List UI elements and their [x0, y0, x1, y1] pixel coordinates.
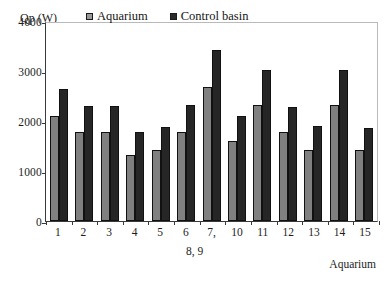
bar-control-basin [186, 105, 195, 221]
bar-chart: 01000200030004000 Qp (W) Aquarium Contro… [0, 0, 390, 283]
bar-control-basin [161, 127, 170, 221]
y-axis-tick-mark [42, 23, 46, 24]
bar-control-basin [288, 107, 297, 222]
x-axis-tick-label: 10 [224, 226, 250, 238]
x-axis-tick-mark [328, 221, 329, 225]
y-axis-tick-mark [42, 173, 46, 174]
bar-group [250, 23, 275, 221]
bar-aquarium [330, 105, 339, 221]
y-axis-tick-labels: 01000200030004000 [0, 0, 42, 283]
x-axis-tick-mark [123, 221, 124, 225]
bar-aquarium [279, 132, 288, 221]
y-axis-tick-label: 3000 [4, 67, 42, 79]
bar-control-basin [364, 128, 373, 222]
bar-group [326, 23, 351, 221]
bar-aquarium [203, 87, 212, 221]
bar-aquarium [177, 132, 186, 221]
chart-legend: Aquarium Control basin [86, 10, 248, 23]
x-axis-tick-mark [379, 221, 380, 225]
x-axis-tick-mark [200, 221, 201, 225]
x-axis-tick-mark [46, 221, 47, 225]
bar-group [71, 23, 96, 221]
bar-control-basin [237, 116, 246, 222]
bar-aquarium [253, 105, 262, 221]
bar-group [301, 23, 326, 221]
bar-control-basin [135, 132, 144, 221]
y-axis-tick-label: 0 [4, 217, 42, 229]
x-axis-tick-mark [277, 221, 278, 225]
x-axis-tick-mark [174, 221, 175, 225]
x-axis-tick-mark [353, 221, 354, 225]
bar-aquarium [355, 150, 364, 221]
x-axis-tick-label: 15 [352, 226, 378, 238]
bar-group [224, 23, 249, 221]
legend-item-aquarium: Aquarium [86, 10, 148, 23]
legend-swatch-aquarium-icon [86, 13, 93, 20]
x-axis-tick-label: 13 [301, 226, 327, 238]
x-axis-tick-mark [225, 221, 226, 225]
bar-group [122, 23, 147, 221]
bar-aquarium [101, 132, 110, 221]
x-axis-tick-label: 1 [45, 226, 71, 238]
x-axis-tick-label: 12 [275, 226, 301, 238]
bar-group [199, 23, 224, 221]
bar-control-basin [262, 70, 271, 221]
plot-area [45, 22, 378, 222]
x-axis-tick-label: 2 [71, 226, 97, 238]
x-axis-tick-mark [72, 221, 73, 225]
x-axis-tick-label: 3 [96, 226, 122, 238]
bars-layer [46, 23, 377, 221]
bar-control-basin [313, 126, 322, 221]
y-axis-tick-mark [42, 73, 46, 74]
bar-control-basin [84, 106, 93, 222]
x-axis-wrapped-label: 8, 9 [28, 245, 361, 257]
x-axis-tick-labels: 1234567,101112131415 [45, 226, 378, 246]
legend-swatch-control-basin-icon [170, 13, 177, 20]
bar-group [148, 23, 173, 221]
x-axis-tick-label: 6 [173, 226, 199, 238]
x-axis-tick-label: 11 [250, 226, 276, 238]
y-axis-tick-label: 2000 [4, 117, 42, 129]
legend-label-aquarium: Aquarium [97, 10, 148, 23]
x-axis-tick-label: 5 [147, 226, 173, 238]
bar-control-basin [339, 70, 348, 221]
x-axis-tick-mark [302, 221, 303, 225]
bar-aquarium [152, 150, 161, 221]
bar-group [46, 23, 71, 221]
bar-aquarium [304, 150, 313, 221]
x-axis-tick-label: 4 [122, 226, 148, 238]
x-axis-tick-label: 7, [199, 226, 225, 238]
bar-aquarium [228, 141, 237, 221]
bar-aquarium [126, 155, 135, 222]
bar-group [173, 23, 198, 221]
legend-item-control-basin: Control basin [170, 10, 249, 23]
legend-label-control-basin: Control basin [181, 10, 249, 23]
bar-control-basin [110, 106, 119, 222]
y-axis-tick-label: 1000 [4, 167, 42, 179]
x-axis-tick-mark [97, 221, 98, 225]
bar-aquarium [75, 132, 84, 221]
bar-group [275, 23, 300, 221]
x-axis-tick-mark [148, 221, 149, 225]
bar-group [97, 23, 122, 221]
bar-control-basin [212, 50, 221, 221]
bar-group [352, 23, 377, 221]
x-axis-tick-label: 14 [327, 226, 353, 238]
x-axis-tick-mark [251, 221, 252, 225]
y-axis-tick-mark [42, 123, 46, 124]
x-axis-title: Aquarium [329, 258, 376, 270]
bar-aquarium [50, 116, 59, 221]
bar-control-basin [59, 89, 68, 221]
